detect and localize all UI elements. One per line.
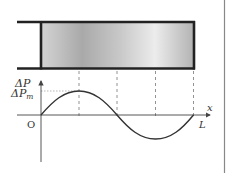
diagram-canvas: ΔP ΔPm O x L — [0, 0, 229, 173]
x-axis-label: x — [207, 102, 213, 113]
gas-column — [41, 23, 193, 68]
dashed-divisions — [79, 71, 194, 116]
end-label: L — [198, 119, 206, 130]
tube — [17, 21, 195, 70]
origin-label: O — [27, 119, 35, 130]
